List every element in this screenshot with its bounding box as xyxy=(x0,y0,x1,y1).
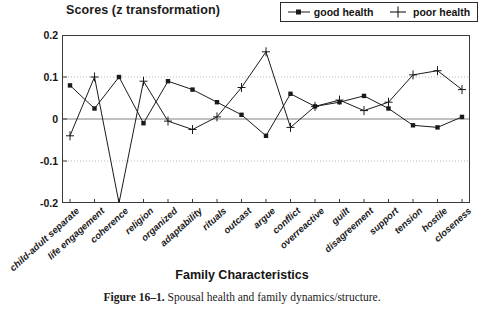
plus-marker-icon xyxy=(387,6,409,18)
y-axis-tick-label: -0.1 xyxy=(40,155,58,167)
y-axis-tick-label: 0 xyxy=(52,113,58,125)
x-axis-title: Family Characteristics xyxy=(0,268,484,282)
plot-area xyxy=(62,35,470,203)
figure-caption: Figure 16–1. Spousal health and family d… xyxy=(0,291,484,303)
figure-container: Scores (z transformation) good health po… xyxy=(0,0,484,313)
square-marker-icon xyxy=(288,6,310,18)
legend: good health poor health xyxy=(280,2,478,22)
figure-caption-label: Figure 16–1. xyxy=(103,291,164,303)
chart-plot xyxy=(62,35,470,203)
figure-caption-text: Spousal health and family dynamics/struc… xyxy=(167,291,380,303)
chart-title: Scores (z transformation) xyxy=(66,3,220,17)
legend-label-good-health: good health xyxy=(314,6,374,18)
legend-entry-good-health: good health xyxy=(288,6,374,18)
legend-label-poor-health: poor health xyxy=(413,6,470,18)
y-axis: 0.20.10-0.1-0.2 xyxy=(0,35,58,203)
x-axis-labels: child-adult separatelife engagementcoher… xyxy=(0,205,484,267)
y-axis-tick-label: 0.1 xyxy=(43,71,58,83)
legend-entry-poor-health: poor health xyxy=(387,6,470,18)
y-axis-tick-label: 0.2 xyxy=(43,29,58,41)
